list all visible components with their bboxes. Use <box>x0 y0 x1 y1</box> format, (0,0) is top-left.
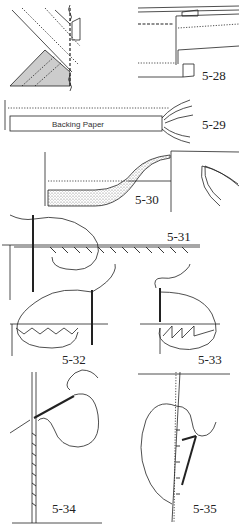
figure-label-5-32: 5-32 <box>62 353 86 366</box>
figure-5-32-drawing <box>10 264 115 356</box>
figure-mitered-corner <box>10 5 80 91</box>
backing-paper-text: Backing Paper <box>52 121 104 129</box>
figure-label-5-35: 5-35 <box>193 502 217 515</box>
figure-5-31-drawing <box>2 215 200 300</box>
figure-label-5-30: 5-30 <box>135 193 159 206</box>
figure-label-5-34: 5-34 <box>52 502 76 515</box>
figure-label-5-33: 5-33 <box>198 353 222 366</box>
figure-5-33-drawing <box>140 264 220 354</box>
figure-5-28-drawing <box>138 6 239 77</box>
figure-label-5-31: 5-31 <box>167 230 191 243</box>
figure-label-5-28: 5-28 <box>202 69 226 82</box>
sewing-illustration-page: 5-28 Backing Paper 5-29 5-30 5-31 5-32 5… <box>0 0 239 532</box>
figure-label-5-29: 5-29 <box>202 118 226 131</box>
